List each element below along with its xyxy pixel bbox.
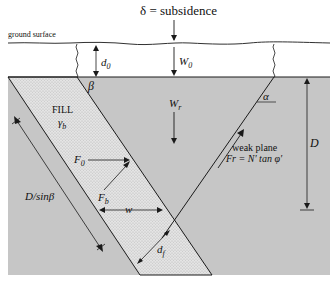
w-label: w <box>125 204 132 215</box>
gamma-subscript: b <box>62 122 66 131</box>
alpha-label: α <box>263 91 269 102</box>
F0-label: F0 <box>74 154 85 168</box>
crack-right <box>273 44 275 77</box>
Fb-symbol: F <box>98 191 105 203</box>
D-sin-beta-label: D/sinβ <box>25 191 54 202</box>
df-subscript: f <box>163 249 165 258</box>
subsidence-title: δ = subsidence <box>140 4 217 17</box>
Fb-subscript: b <box>105 197 109 206</box>
Wr-symbol: W <box>169 97 178 109</box>
W0-subscript: 0 <box>188 61 192 70</box>
d0-subscript: 0 <box>107 62 111 71</box>
F0-symbol: F <box>74 153 81 165</box>
Fb-label: Fb <box>98 192 109 206</box>
ground-surface-line <box>8 42 330 45</box>
subsidence-diagram: δ = subsidence ground surface d0 W0 β α … <box>0 0 335 288</box>
Wr-label: Wr <box>169 98 181 112</box>
F0-subscript: 0 <box>81 159 85 168</box>
d0-label: d0 <box>101 57 111 71</box>
weak-plane-equation: Fr = N′ tan φ′ <box>226 154 282 164</box>
D-label: D <box>310 137 319 149</box>
Wr-subscript: r <box>178 103 181 112</box>
df-label: df <box>157 244 165 258</box>
W0-symbol: W <box>179 55 188 67</box>
crack-left <box>76 44 78 77</box>
gamma-b-label: γb <box>58 117 66 131</box>
beta-label: β <box>88 80 94 92</box>
weak-plane-label: weak plane <box>232 143 277 153</box>
fill-label: FILL <box>52 105 73 115</box>
diagram-graphics <box>0 0 335 288</box>
W0-label: W0 <box>179 56 192 70</box>
ground-surface-label: ground surface <box>8 31 56 39</box>
